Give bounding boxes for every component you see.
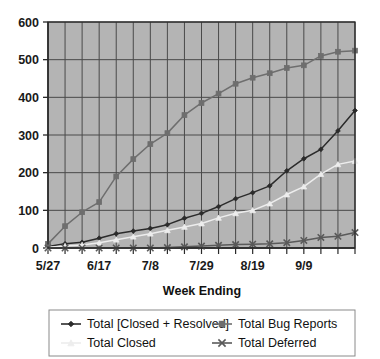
legend-label: Total Closed: [87, 336, 156, 350]
data-point-marker: [301, 63, 306, 68]
data-point-marker: [63, 224, 68, 229]
x-tick-label: 8/19: [240, 259, 264, 273]
data-point-marker: [216, 91, 221, 96]
data-point-marker: [97, 200, 102, 205]
y-tick-label: 600: [18, 16, 39, 30]
chart-legend: Total [Closed + Resolved]Total Bug Repor…: [49, 310, 355, 356]
data-point-marker: [318, 54, 323, 59]
x-tick-label: 5/27: [36, 259, 60, 273]
x-tick-label: 9/9: [295, 259, 312, 273]
y-tick-label: 100: [18, 204, 39, 218]
data-point-marker: [114, 174, 119, 179]
data-point-marker: [250, 75, 255, 80]
x-tick-label: 7/8: [142, 259, 159, 273]
data-point-marker: [182, 113, 187, 118]
legend-item[interactable]: Total [Closed + Resolved]: [61, 317, 229, 331]
legend-label: Total Deferred: [238, 336, 317, 350]
x-axis-title: Week Ending: [163, 284, 241, 298]
data-point-marker: [267, 71, 272, 76]
data-point-marker: [80, 210, 85, 215]
y-tick-label: 300: [18, 129, 39, 143]
data-point-marker: [165, 131, 170, 136]
y-tick-label: 500: [18, 53, 39, 67]
data-point-marker: [233, 81, 238, 86]
y-tick-label: 200: [18, 166, 39, 180]
x-tick-label: 7/29: [189, 259, 213, 273]
data-point-marker: [336, 49, 341, 54]
y-tick-label: 400: [18, 91, 39, 105]
legend-label: Total [Closed + Resolved]: [87, 317, 229, 331]
chart-container: 0100200300400500600 5/276/177/87/298/199…: [0, 0, 380, 359]
data-point-marker: [148, 142, 153, 147]
data-point-marker: [131, 157, 136, 162]
data-point-marker: [199, 101, 204, 106]
line-chart: 0100200300400500600 5/276/177/87/298/199…: [0, 0, 380, 359]
legend-marker-square: [219, 321, 225, 327]
data-point-marker: [284, 66, 289, 71]
y-tick-label: 0: [32, 242, 39, 256]
legend-label: Total Bug Reports: [238, 317, 337, 331]
x-tick-label: 6/17: [87, 259, 111, 273]
